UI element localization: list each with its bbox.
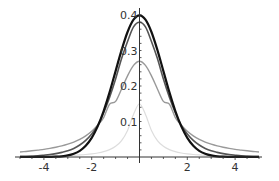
x-tick-label: 4 bbox=[232, 161, 239, 174]
x-tick-labels: -4-224 bbox=[38, 161, 238, 174]
x-tick-label: -2 bbox=[86, 161, 97, 174]
x-tick-label: -4 bbox=[38, 161, 49, 174]
x-tick-label: 2 bbox=[184, 161, 191, 174]
y-tick-label: 0.2 bbox=[120, 80, 138, 93]
chart-canvas: -4-224 0.10.20.30.4 bbox=[0, 0, 279, 181]
y-tick-label: 0.1 bbox=[120, 116, 138, 129]
y-tick-label: 0.4 bbox=[120, 9, 138, 22]
y-tick-label: 0.3 bbox=[120, 45, 138, 58]
